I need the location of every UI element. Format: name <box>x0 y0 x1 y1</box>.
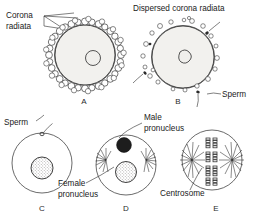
fertilization-diagram-figure: Corona radiata <box>0 0 256 218</box>
label-female-pronucleus-line2: pronucleus <box>58 190 98 199</box>
panel-letter-c: C <box>39 204 45 213</box>
panel-c-sperm-tail <box>44 124 53 133</box>
panel-b-nucleus <box>179 50 192 63</box>
panel-e-chromosomes <box>206 138 217 185</box>
panel-a-ovum <box>55 25 115 85</box>
centrosome-leader-line <box>190 168 202 190</box>
panel-c-female-nucleus <box>31 157 53 179</box>
sperm-b-leader-line <box>207 93 221 94</box>
panel-e-centrosome-left <box>180 142 205 178</box>
panel-d-aster-right <box>141 148 157 172</box>
male-pronucleus-leader-line <box>119 123 142 138</box>
panel-e-centrosome-right <box>219 142 244 178</box>
label-centrosome: Centrosome <box>160 189 205 198</box>
diagram-canvas: Corona radiata <box>0 0 256 218</box>
panel-letter-d: D <box>123 204 129 213</box>
label-dispersed-corona-radiata: Dispersed corona radiata <box>133 4 225 13</box>
label-male-pronucleus-line2: pronucleus <box>144 124 184 133</box>
sperm-c-leader-line <box>36 115 44 121</box>
panel-b-group: Dispersed corona radiata <box>133 4 246 107</box>
panel-d-group: Male pronucleus Female pronucleus <box>58 113 184 213</box>
panel-d-aster-left <box>96 148 112 172</box>
label-corona-radiata-line2: radiata <box>6 22 31 31</box>
label-sperm-b: Sperm <box>222 90 246 99</box>
panel-a-nucleus <box>86 51 101 66</box>
panel-letter-a: A <box>81 97 87 106</box>
panel-letter-e: E <box>213 204 218 213</box>
panel-letter-b: B <box>175 97 180 106</box>
label-female-pronucleus-line1: Female <box>58 179 86 188</box>
label-corona-radiata-line1: Corona <box>6 11 33 20</box>
panel-d-male-pronucleus <box>117 138 132 153</box>
label-sperm-c: Sperm <box>4 118 28 127</box>
panel-d-female-pronucleus <box>116 162 137 183</box>
panel-a-group: Corona radiata <box>6 11 126 106</box>
panel-e-group: Centrosome <box>160 130 244 213</box>
label-male-pronucleus-line1: Male <box>144 113 162 122</box>
